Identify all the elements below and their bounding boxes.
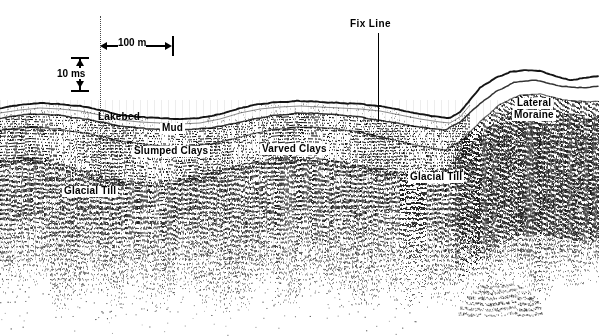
unit-label-glacial-till-right: Glacial Till xyxy=(408,172,464,183)
seismic-section-canvas xyxy=(0,0,599,336)
fix-line-label: Fix Line xyxy=(350,18,391,29)
unit-label-varved-clays: Varved Clays xyxy=(260,144,329,155)
scale-bar-vertical-label: 10 ms xyxy=(57,68,85,79)
unit-label-lateral-moraine-line2: Moraine xyxy=(512,110,556,121)
unit-label-slumped-clays: Slumped Clays xyxy=(132,146,210,157)
unit-label-mud: Mud xyxy=(160,123,185,134)
unit-label-glacial-till-left: Glacial Till xyxy=(62,186,118,197)
scale-bar-horizontal-label: 100 m xyxy=(118,37,146,48)
scale-bar-arrow-right xyxy=(165,42,172,50)
unit-label-lakebed: Lakebed xyxy=(96,112,142,123)
unit-label-lateral-moraine-line1: Lateral xyxy=(515,98,553,109)
scale-bar-tick-right xyxy=(172,36,174,56)
scale-bar-arrow-down xyxy=(76,81,84,88)
scale-bar-arrow-left xyxy=(100,42,107,50)
scale-bar-cap-bottom xyxy=(71,90,89,92)
seismic-profile-figure: 100 m 10 ms Fix Line LakebedMudSlumped C… xyxy=(0,0,599,336)
scale-bar-arrow-up xyxy=(76,59,84,66)
fix-line-stem xyxy=(378,33,379,120)
